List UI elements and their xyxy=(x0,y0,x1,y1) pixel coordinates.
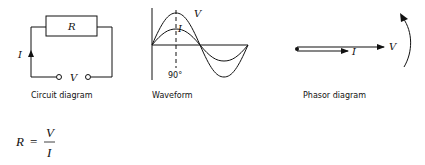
current-arrow-icon xyxy=(28,50,34,57)
terminal-right-icon xyxy=(86,75,91,80)
waveform-voltage-label: V xyxy=(194,8,203,19)
circuit-caption: Circuit diagram xyxy=(31,91,93,100)
rotation-arrow-icon xyxy=(403,18,411,67)
phasor-current-label: I xyxy=(351,46,357,57)
waveform-caption: Waveform xyxy=(152,91,193,100)
terminal-left-icon xyxy=(57,75,62,80)
equation-equals: = xyxy=(30,134,37,149)
equation-denominator: I xyxy=(46,145,52,160)
circuit-wire-right xyxy=(91,27,112,77)
waveform-diagram: V I 90° Waveform xyxy=(152,8,248,100)
resistor-label: R xyxy=(67,21,76,32)
phasor-diagram: V I Phasor diagram xyxy=(295,13,411,100)
equation-numerator: V xyxy=(46,125,56,140)
phasor-voltage-label: V xyxy=(389,41,398,52)
waveform-current-label: I xyxy=(177,23,183,34)
phasor-caption: Phasor diagram xyxy=(303,91,366,100)
current-label: I xyxy=(17,49,23,60)
ohms-law-equation: R = V I xyxy=(15,125,56,160)
circuit-wire-left xyxy=(31,27,56,77)
circuit-diagram: R V I Circuit diagram xyxy=(17,16,112,100)
rotation-arrowhead-icon xyxy=(400,13,408,22)
diagram-canvas: R V I Circuit diagram V I 90° Waveform V… xyxy=(0,0,425,165)
voltage-label: V xyxy=(70,72,79,83)
angle-label: 90° xyxy=(168,71,182,80)
equation-lhs: R xyxy=(15,134,24,149)
